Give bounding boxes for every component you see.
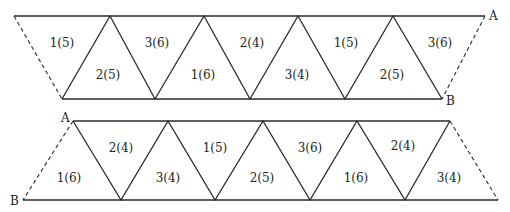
face-label: 2(4) [391,139,416,153]
bottom-strip-zigzag [73,121,450,200]
face-label: 3(4) [156,171,181,185]
face-label: 1(6) [191,68,216,82]
top-strip-left-dashed-edge [14,16,62,99]
face-label: 2(5) [250,171,275,185]
bottom-strip-point-a: A [60,111,70,125]
bottom-strip-point-b: B [10,194,19,208]
net-diagram: A B 1(5) 3(6) 2(4) 1(5) 3(6) 2(5) 1(6) 3… [0,0,510,212]
top-strip-point-b: B [446,94,455,108]
top-strip-zigzag [62,16,442,99]
face-label: 3(6) [428,36,453,50]
face-label: 2(5) [380,68,405,82]
top-strip: A B 1(5) 3(6) 2(4) 1(5) 3(6) 2(5) 1(6) 3… [14,9,498,108]
face-label: 3(6) [298,141,323,155]
face-label: 1(6) [344,171,369,185]
face-label: 3(4) [437,171,462,185]
top-strip-right-dashed-edge [442,16,485,99]
top-strip-point-a: A [488,9,498,23]
face-label: 1(5) [334,36,359,50]
face-label: 2(4) [109,141,134,155]
face-label: 3(6) [145,36,170,50]
face-label: 2(5) [96,68,121,82]
bottom-strip-right-dashed-edge [450,121,498,200]
face-label: 1(5) [50,36,75,50]
face-label: 1(5) [203,141,228,155]
bottom-strip-left-dashed-edge [23,121,73,200]
bottom-strip: A B 2(4) 1(5) 3(6) 2(4) 1(6) 3(4) 2(5) 1… [10,111,498,208]
face-label: 3(4) [285,68,310,82]
face-label: 1(6) [57,171,82,185]
face-label: 2(4) [240,36,265,50]
